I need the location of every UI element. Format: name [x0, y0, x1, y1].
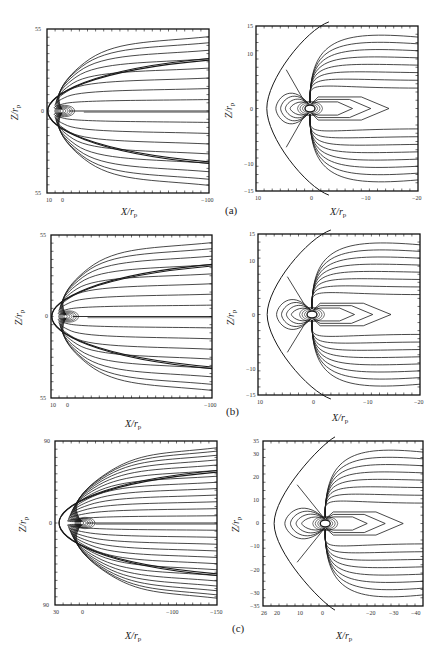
y-axis-label: Z/rp	[17, 517, 30, 533]
x-tick: 0	[66, 402, 69, 408]
x-tick: −20	[412, 195, 421, 201]
x-axis-label: X/rp	[121, 206, 137, 219]
field-lines-plot	[256, 26, 418, 191]
x-tick: 0	[310, 195, 313, 201]
x-tick: 10	[50, 402, 56, 408]
field-lines-plot	[55, 441, 217, 605]
x-axis-label: X/rp	[330, 206, 346, 219]
x-tick: 10	[255, 195, 261, 201]
x-tick: 10	[297, 610, 303, 616]
y-tick: −10	[246, 366, 255, 372]
panel-c-left	[55, 441, 217, 605]
field-lines-plot	[258, 234, 420, 395]
x-tick: −10	[361, 195, 370, 201]
panel-label-b: (b)	[226, 405, 239, 417]
x-tick: −10	[363, 399, 372, 405]
x-axis-label: X/rp	[125, 418, 141, 431]
y-axis-label: Z/rp	[230, 517, 243, 533]
y-tick: 0	[250, 106, 253, 112]
y-tick: −20	[250, 567, 259, 573]
x-axis-label: X/rp	[125, 630, 141, 643]
y-axis-label: Z/rp	[225, 310, 238, 326]
y-tick: −10	[250, 543, 259, 549]
panel-b-left	[51, 235, 212, 398]
x-axis-label: X/rp	[336, 630, 352, 643]
y-tick: 20	[253, 474, 259, 480]
y-tick: 35	[253, 438, 259, 444]
y-tick: 90	[44, 438, 50, 444]
y-tick: 10	[247, 51, 253, 57]
x-tick: −20	[414, 399, 423, 405]
y-tick: 55	[40, 232, 46, 238]
field-lines-plot	[263, 441, 423, 606]
y-tick: 30	[253, 451, 259, 457]
y-tick: 90	[43, 602, 49, 608]
y-tick: 15	[247, 23, 253, 29]
y-tick: 0	[41, 108, 44, 114]
x-tick: −30	[389, 610, 398, 616]
y-tick: −10	[244, 161, 253, 167]
field-lines-plot	[51, 235, 212, 398]
field-lines-plot	[47, 29, 209, 193]
y-axis-label: Z/rp	[223, 103, 236, 119]
x-tick: −150	[210, 609, 222, 615]
y-tick: 55	[35, 190, 41, 196]
x-tick: 10	[46, 197, 52, 203]
x-tick: −100	[204, 402, 216, 408]
panel-b-right	[258, 234, 420, 395]
y-tick: 0	[252, 312, 255, 318]
y-tick: 0	[49, 520, 52, 526]
y-tick: 0	[45, 313, 48, 319]
y-tick: 55	[40, 395, 46, 401]
x-tick: 0	[312, 399, 315, 405]
x-tick: −100	[166, 609, 178, 615]
x-tick: 10	[257, 399, 263, 405]
y-tick: 55	[35, 26, 41, 32]
y-tick: 15	[249, 231, 255, 237]
x-tick: 20	[274, 610, 280, 616]
y-axis-label: Z/rp	[9, 105, 22, 121]
x-tick: 0	[81, 609, 84, 615]
y-tick: 10	[253, 497, 259, 503]
x-tick: 26	[261, 610, 267, 616]
x-tick: −100	[201, 197, 213, 203]
panel-a-right	[256, 26, 418, 191]
panel-a-left	[47, 29, 209, 193]
y-axis-label: Z/rp	[13, 310, 26, 326]
y-tick: −15	[244, 188, 253, 194]
x-tick: 0	[61, 197, 64, 203]
x-tick: −40	[411, 610, 420, 616]
panel-label-a: (a)	[225, 204, 237, 216]
y-tick: −30	[250, 590, 259, 596]
y-tick: −15	[246, 392, 255, 398]
panel-label-c: (c)	[232, 622, 244, 634]
x-tick: 30	[53, 609, 59, 615]
panel-c-right	[263, 441, 423, 606]
y-tick: 10	[249, 258, 255, 264]
x-tick: 0	[321, 610, 324, 616]
x-axis-label: X/rp	[332, 412, 348, 425]
y-tick: −35	[250, 603, 259, 609]
x-tick: −20	[366, 610, 375, 616]
y-tick: 0	[256, 520, 259, 526]
